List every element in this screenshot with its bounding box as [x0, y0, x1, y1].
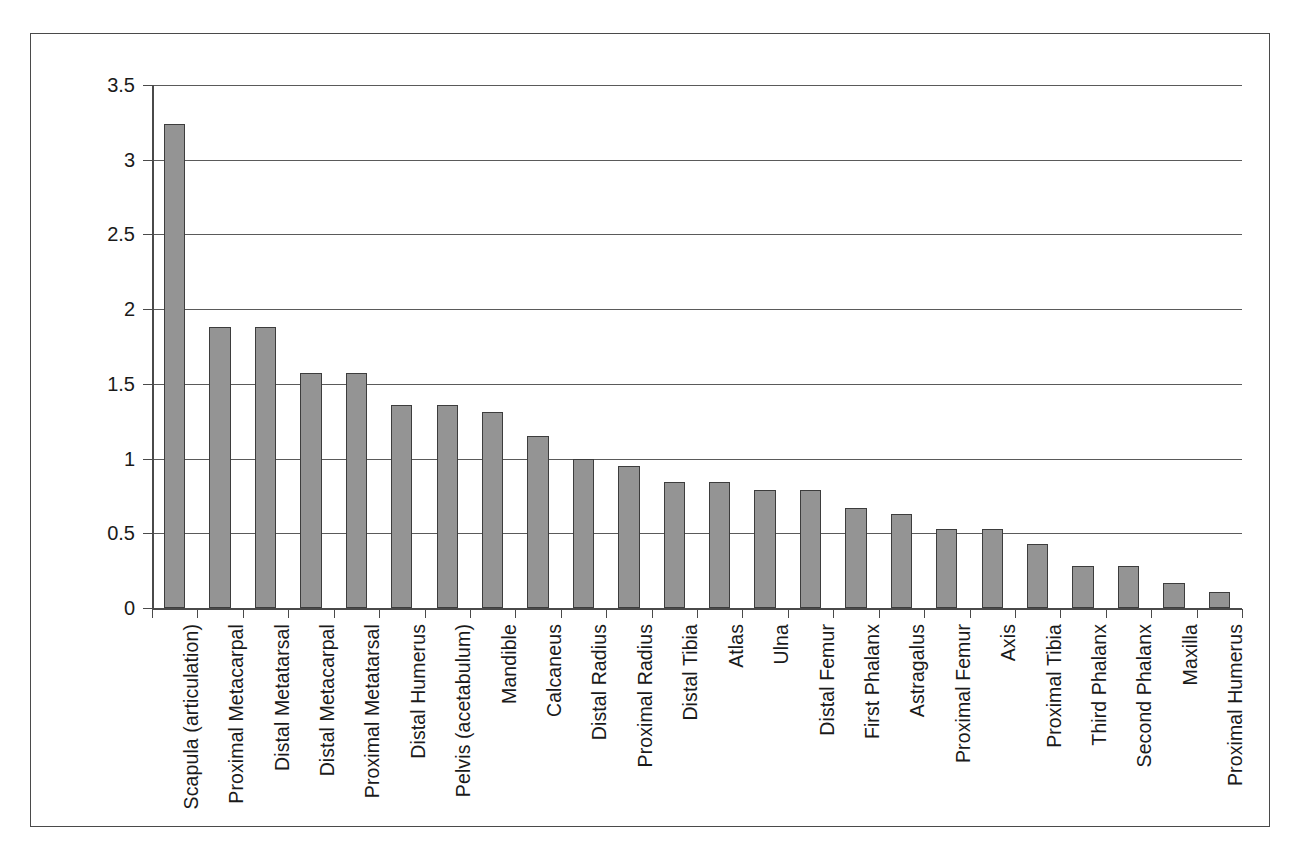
x-axis-tick-mark — [970, 609, 971, 618]
bar — [255, 327, 276, 608]
bar — [527, 436, 548, 608]
x-axis-tick-mark — [788, 609, 789, 618]
y-axis-tick-label: 0 — [124, 598, 135, 618]
x-axis-tick-mark — [1197, 609, 1198, 618]
bar — [618, 466, 639, 608]
bar — [573, 459, 594, 608]
y-axis-tick-mark — [143, 85, 152, 86]
y-axis-tick-mark — [143, 533, 152, 534]
bar — [1209, 592, 1230, 608]
x-axis-tick-mark — [652, 609, 653, 618]
x-axis-tick-mark — [742, 609, 743, 618]
y-axis-tick-mark — [143, 384, 152, 385]
x-axis-tick-mark — [425, 609, 426, 618]
x-axis-tick-mark — [1106, 609, 1107, 618]
bar — [982, 529, 1003, 608]
x-axis-tick-mark — [833, 609, 834, 618]
x-axis-tick-mark — [152, 609, 153, 618]
x-axis-tick-label: Atlas — [727, 624, 747, 668]
x-axis-tick-mark — [470, 609, 471, 618]
x-axis-tick-mark — [561, 609, 562, 618]
x-axis-tick-mark — [515, 609, 516, 618]
bar — [936, 529, 957, 608]
y-axis-tick-label: 1.5 — [107, 374, 135, 394]
x-axis-tick-label: Third Phalanx — [1090, 624, 1110, 746]
bar — [845, 508, 866, 608]
x-axis-tick-label: Distal Metacarpal — [318, 624, 338, 776]
bar — [664, 482, 685, 608]
x-axis-tick-label: Proximal Metacarpal — [227, 624, 247, 804]
y-axis-tick-label: 1 — [124, 449, 135, 469]
bar — [754, 490, 775, 608]
x-axis-tick-mark — [879, 609, 880, 618]
bar — [1163, 583, 1184, 608]
x-axis-tick-label: Astragalus — [908, 624, 928, 717]
x-axis-tick-mark — [334, 609, 335, 618]
y-axis-tick-label: 3 — [124, 150, 135, 170]
y-axis-tick-label: 3.5 — [107, 75, 135, 95]
bar — [1027, 544, 1048, 608]
y-axis-tick-mark — [143, 608, 152, 609]
bar — [709, 482, 730, 608]
y-axis-tick-label: 0.5 — [107, 523, 135, 543]
x-axis-tick-mark — [288, 609, 289, 618]
x-axis-tick-label: Distal Metatarsal — [273, 624, 293, 771]
x-axis-tick-mark — [697, 609, 698, 618]
x-axis-tick-mark — [1242, 609, 1243, 618]
x-axis-tick-mark — [243, 609, 244, 618]
bars-layer — [152, 85, 1242, 608]
bar — [164, 124, 185, 608]
chart-figure: 00.511.522.533.5 Scapula (articulation)P… — [0, 0, 1297, 860]
x-axis-tick-mark — [1015, 609, 1016, 618]
x-axis-tick-mark — [1151, 609, 1152, 618]
bar — [800, 490, 821, 608]
x-axis-tick-label: Mandible — [500, 624, 520, 704]
y-axis-tick-labels: 00.511.522.533.5 — [60, 0, 135, 860]
bar — [482, 412, 503, 608]
x-axis-tick-mark — [197, 609, 198, 618]
x-axis-tick-label: Proximal Radius — [636, 624, 656, 767]
bar — [437, 405, 458, 608]
bar — [1118, 566, 1139, 608]
x-axis-tick-label: Pelvis (acetabulum) — [454, 624, 474, 797]
y-axis-tick-mark — [143, 309, 152, 310]
bar — [346, 373, 367, 608]
y-axis-tick-label: 2.5 — [107, 224, 135, 244]
x-axis-tick-label: Axis — [999, 624, 1019, 661]
x-axis-tick-label: First Phalanx — [863, 624, 883, 739]
x-axis-tick-label: Proximal Tibia — [1045, 624, 1065, 748]
x-axis-tick-mark — [379, 609, 380, 618]
x-axis-tick-label: Distal Femur — [818, 624, 838, 736]
x-axis-tick-label: Second Phalanx — [1135, 624, 1155, 767]
x-axis-tick-mark — [606, 609, 607, 618]
x-axis-tick-label: Proximal Femur — [954, 624, 974, 763]
x-axis-tick-label: Proximal Humerus — [1226, 624, 1246, 786]
bar — [209, 327, 230, 608]
y-axis-tick-mark — [143, 160, 152, 161]
y-axis-tick-label: 2 — [124, 299, 135, 319]
x-axis-tick-mark — [924, 609, 925, 618]
x-axis-tick-label: Proximal Metatarsal — [363, 624, 383, 798]
x-axis-tick-mark — [1060, 609, 1061, 618]
bar — [391, 405, 412, 608]
x-axis-tick-label: Distal Radius — [590, 624, 610, 740]
x-axis-tick-label: Calcaneus — [545, 624, 565, 717]
x-axis-tick-label: Distal Tibia — [681, 624, 701, 721]
bar — [300, 373, 321, 608]
y-axis-tick-mark — [143, 459, 152, 460]
x-axis-tick-label: Distal Humerus — [409, 624, 429, 759]
x-axis-tick-label: Scapula (articulation) — [182, 624, 202, 809]
bar — [1072, 566, 1093, 608]
bar — [891, 514, 912, 608]
y-axis-tick-mark — [143, 234, 152, 235]
x-axis-tick-label: Ulna — [772, 624, 792, 665]
x-axis-tick-label: Maxilla — [1181, 624, 1201, 685]
